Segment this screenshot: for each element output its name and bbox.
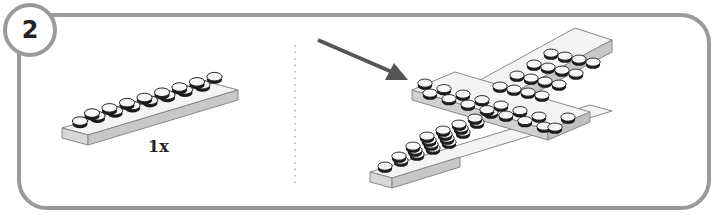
- placement-arrow-icon: [318, 40, 408, 80]
- stud: [392, 152, 406, 163]
- stud: [418, 79, 432, 90]
- stud: [207, 72, 222, 83]
- stud: [527, 60, 541, 71]
- stud: [544, 49, 558, 60]
- stud: [119, 98, 134, 109]
- stud: [561, 113, 575, 124]
- stud: [452, 120, 466, 131]
- stud: [541, 63, 555, 74]
- stud: [480, 106, 494, 117]
- stud: [84, 109, 99, 120]
- stud: [172, 83, 187, 94]
- stud: [442, 95, 456, 106]
- stud: [423, 89, 437, 100]
- stud: [524, 74, 538, 85]
- stud: [378, 162, 392, 173]
- stud: [137, 93, 152, 104]
- stud: [406, 142, 420, 153]
- stud: [420, 132, 434, 143]
- stud: [510, 71, 524, 82]
- stud: [513, 107, 527, 118]
- part-quantity-label: 1x: [148, 137, 169, 156]
- stud: [555, 66, 569, 77]
- stud: [154, 88, 169, 99]
- stud: [532, 112, 546, 123]
- stud: [518, 117, 532, 128]
- stud: [535, 91, 549, 102]
- stud: [499, 111, 513, 122]
- stud: [494, 101, 508, 112]
- stud: [475, 96, 489, 107]
- stud: [507, 85, 521, 96]
- stud: [72, 117, 87, 128]
- stud: [102, 104, 117, 115]
- stud: [189, 78, 204, 89]
- stud: [548, 123, 562, 134]
- stud: [456, 90, 470, 101]
- stud: [552, 80, 566, 91]
- stud: [586, 58, 600, 69]
- stud: [493, 82, 507, 93]
- stud: [558, 52, 572, 63]
- stud: [569, 69, 583, 80]
- stud: [436, 126, 450, 137]
- stud: [461, 100, 475, 111]
- stud: [437, 85, 451, 96]
- stud: [538, 77, 552, 88]
- step-illustration: [0, 0, 719, 217]
- stud: [521, 88, 535, 99]
- stud: [468, 114, 482, 125]
- step-number-badge: 2: [3, 3, 57, 57]
- stud: [572, 55, 586, 66]
